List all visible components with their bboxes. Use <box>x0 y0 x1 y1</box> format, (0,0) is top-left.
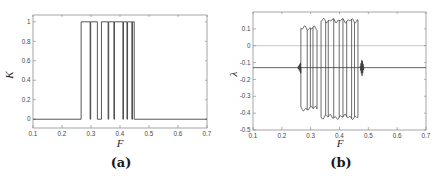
y-tick-label: 0.6 <box>22 57 31 64</box>
chart-b-ylabel: λ <box>227 71 239 77</box>
x-tick-label: 0.6 <box>174 130 183 137</box>
x-tick-label: 0.2 <box>277 132 286 139</box>
chart-a-ylabel: K <box>3 71 15 80</box>
caption-b: (b) <box>330 155 351 170</box>
x-tick-label: 0.5 <box>364 132 373 139</box>
x-tick-label: 0.6 <box>393 132 402 139</box>
y-tick-label: 0.2 <box>22 96 31 103</box>
chart-b-xlabel: F <box>336 137 344 149</box>
series-K <box>33 22 207 119</box>
caption-a: (a) <box>111 155 132 170</box>
y-tick-label: 0.1 <box>242 25 251 32</box>
chart-a-plot: 0.10.20.30.40.50.60.700.20.40.60.81 <box>22 15 212 137</box>
y-tick-label: 0.8 <box>22 38 31 45</box>
y-tick-label: -0.5 <box>240 126 251 133</box>
band-top-envelope <box>301 26 317 30</box>
figure: 0.10.20.30.40.50.60.700.20.40.60.81 0.10… <box>0 0 445 180</box>
y-tick-label: -0.4 <box>240 109 251 116</box>
x-tick-label: 0.2 <box>58 130 67 137</box>
y-tick-label: 1 <box>27 18 31 25</box>
x-tick-label: 0.5 <box>145 130 154 137</box>
x-tick-label: 0.3 <box>306 132 315 139</box>
band-bottom-envelope <box>301 106 317 111</box>
y-tick-label: 0.4 <box>22 76 31 83</box>
y-tick-label: -0.3 <box>240 92 251 99</box>
y-tick-label: 0 <box>247 42 251 49</box>
x-tick-label: 0.7 <box>422 132 431 139</box>
y-tick-label: -0.2 <box>240 76 251 83</box>
x-tick-label: 0.7 <box>203 130 212 137</box>
y-tick-label: -0.1 <box>240 59 251 66</box>
y-tick-label: 0 <box>27 115 31 122</box>
figure-canvas: 0.10.20.30.40.50.60.700.20.40.60.81 0.10… <box>0 0 445 180</box>
x-tick-label: 0.3 <box>87 130 96 137</box>
chart-a-xlabel: F <box>116 137 124 149</box>
x-tick-label: 0.4 <box>116 130 125 137</box>
x-tick-label: 0.1 <box>29 130 38 137</box>
axes-box <box>33 15 207 128</box>
chart-b-plot: 0.10.20.30.40.50.60.70.10-0.1-0.2-0.3-0.… <box>240 12 431 139</box>
